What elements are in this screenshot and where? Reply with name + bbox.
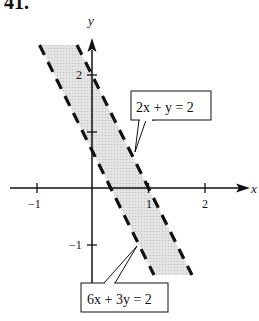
callout-2x-plus-y: 2x + y = 2 xyxy=(131,91,211,152)
inequality-graph: y x −1 1 2 2 −1 2x + y = 2 6x + 3y = 2 xyxy=(0,0,259,321)
y-axis-arrow-icon xyxy=(88,38,97,52)
callout-bottom-text: 6x + 3y = 2 xyxy=(87,292,152,307)
x-axis-label: x xyxy=(250,181,257,196)
tick-label-x-2: 2 xyxy=(202,197,208,211)
y-axis xyxy=(87,38,97,283)
shaded-region xyxy=(40,45,193,275)
tick-label-y-2: 2 xyxy=(76,68,82,82)
tick-label-x-1: 1 xyxy=(146,197,152,211)
y-axis-label: y xyxy=(86,13,94,28)
tick-label-y-neg1: −1 xyxy=(69,238,82,252)
tick-label-x-neg1: −1 xyxy=(28,197,41,211)
callout-top-text: 2x + y = 2 xyxy=(136,100,194,115)
